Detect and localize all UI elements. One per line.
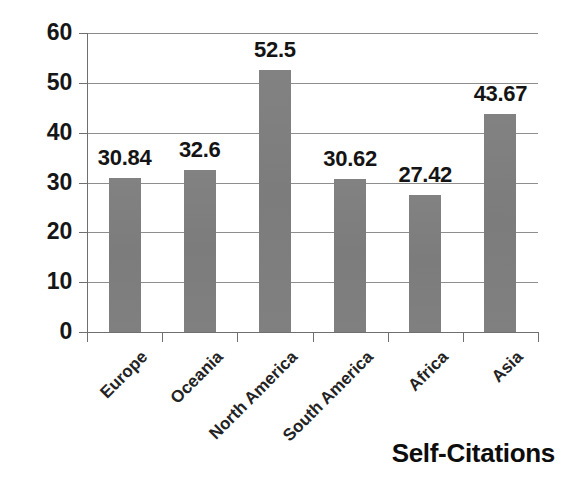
y-axis-tick-label: 30 <box>4 171 72 194</box>
x-axis-category-label: Europe <box>97 348 150 401</box>
y-axis-tick-label-wrap: 60 <box>0 33 72 34</box>
bar-value-label: 32.6 <box>140 139 260 161</box>
gridline <box>87 232 538 233</box>
y-axis-tick <box>79 133 88 134</box>
x-axis-tick <box>237 332 238 342</box>
gridline <box>87 33 538 34</box>
bar[interactable] <box>409 195 441 332</box>
y-axis-tick-label: 0 <box>4 320 72 343</box>
x-axis-tick <box>87 332 88 342</box>
bar-value-label: 43.67 <box>440 83 560 105</box>
x-axis-tick <box>162 332 163 342</box>
bar[interactable] <box>184 170 216 332</box>
y-axis-tick-label-wrap: 50 <box>0 83 72 84</box>
y-axis-tick-label-wrap: 20 <box>0 232 72 233</box>
series-title: Self-Citations <box>392 438 555 469</box>
x-axis-category-label: Africa <box>405 348 451 394</box>
bar[interactable] <box>259 70 291 332</box>
y-axis-tick-label: 50 <box>4 71 72 94</box>
gridline <box>87 133 538 134</box>
y-axis-tick <box>79 183 88 184</box>
x-axis-category-label: Oceania <box>167 348 226 407</box>
y-axis-tick-label: 10 <box>4 270 72 293</box>
y-axis-tick-label-wrap: 0 <box>0 332 72 333</box>
y-axis-tick-label-wrap: 40 <box>0 133 72 134</box>
bar[interactable] <box>484 114 516 332</box>
y-axis-tick <box>79 33 88 34</box>
y-axis-tick-label: 40 <box>4 121 72 144</box>
x-axis-category-label: Asia <box>489 348 526 385</box>
x-axis-tick <box>538 332 539 342</box>
y-axis-tick-label: 20 <box>4 220 72 243</box>
y-axis-tick <box>79 282 88 283</box>
y-axis-tick-label: 60 <box>4 21 72 44</box>
gridline <box>87 282 538 283</box>
y-axis-tick <box>79 232 88 233</box>
bar-value-label: 52.5 <box>215 39 335 61</box>
x-axis-tick <box>463 332 464 342</box>
bar-value-label: 27.42 <box>365 164 485 186</box>
bar-chart: 0102030405060 30.8432.652.530.6227.4243.… <box>0 0 577 497</box>
bar[interactable] <box>109 178 141 332</box>
y-axis-tick-label-wrap: 30 <box>0 183 72 184</box>
y-axis-tick <box>79 83 88 84</box>
x-axis-tick <box>388 332 389 342</box>
bar[interactable] <box>334 179 366 332</box>
y-axis-tick-label-wrap: 10 <box>0 282 72 283</box>
x-axis-tick <box>313 332 314 342</box>
